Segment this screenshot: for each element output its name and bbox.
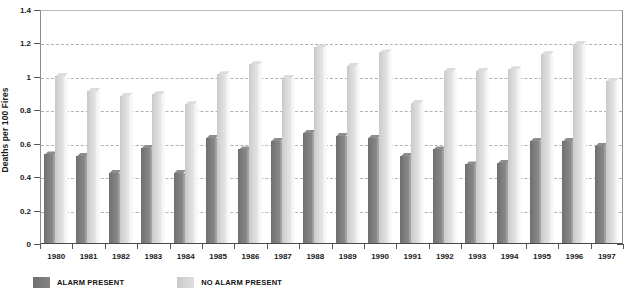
bar-side-face <box>485 71 489 243</box>
x-axis-tick <box>364 244 365 249</box>
bar-side-face <box>64 76 68 243</box>
y-axis-tick-label: 0.6 <box>0 139 31 148</box>
x-axis-tick <box>396 244 397 249</box>
x-axis-tick <box>105 244 106 249</box>
bar-front-face <box>433 149 442 243</box>
bar-1989-no-alarm-present <box>347 66 356 243</box>
bar-side-face <box>194 104 198 243</box>
bar-1984-no-alarm-present <box>185 104 194 243</box>
bar-side-face <box>420 103 424 243</box>
bar-front-face <box>109 173 118 243</box>
bar-1988-alarm-present <box>303 133 312 243</box>
bar-1981-no-alarm-present <box>87 91 96 243</box>
x-axis-tick <box>526 244 527 249</box>
x-axis-tick <box>558 244 559 249</box>
x-axis-tick <box>234 244 235 249</box>
bar-front-face <box>141 148 150 243</box>
bar-side-face <box>453 71 457 243</box>
bar-front-face <box>606 81 615 243</box>
bar-front-face <box>508 69 517 243</box>
bar-side-face <box>323 47 327 243</box>
x-axis-tick <box>267 244 268 249</box>
bar-1993-alarm-present <box>465 164 474 243</box>
legend-label-alarm-present: ALARM PRESENT <box>57 278 124 287</box>
bar-1986-alarm-present <box>238 149 247 243</box>
bar-front-face <box>303 133 312 243</box>
bar-1988-no-alarm-present <box>314 47 323 243</box>
bar-front-face <box>379 52 388 243</box>
bar-1989-alarm-present <box>336 136 345 243</box>
plot-inner <box>41 11 622 243</box>
y-axis-tick-label: 0.4 <box>0 173 31 182</box>
bar-1980-alarm-present <box>44 154 53 243</box>
gridline <box>41 44 622 45</box>
bar-1997-no-alarm-present <box>606 81 615 243</box>
bar-1990-alarm-present <box>368 138 377 243</box>
y-axis-tick-label: 1.4 <box>0 6 31 15</box>
bar-1987-alarm-present <box>271 141 280 243</box>
bar-front-face <box>314 47 323 243</box>
bar-1995-no-alarm-present <box>541 54 550 243</box>
x-axis-tick <box>40 244 41 249</box>
bar-1992-no-alarm-present <box>444 71 453 243</box>
y-axis-tick-label: 1.2 <box>0 39 31 48</box>
x-axis-tick <box>137 244 138 249</box>
bar-front-face <box>368 138 377 243</box>
bar-front-face <box>185 104 194 243</box>
bar-1993-no-alarm-present <box>476 71 485 243</box>
bar-front-face <box>541 54 550 243</box>
bar-side-face <box>517 69 521 243</box>
y-axis-tick-label: 0.8 <box>0 106 31 115</box>
x-axis-tick <box>493 244 494 249</box>
bar-1983-alarm-present <box>141 148 150 243</box>
bar-side-face <box>96 91 100 243</box>
x-axis-tick <box>332 244 333 249</box>
bar-front-face <box>282 78 291 243</box>
bar-side-face <box>226 74 230 243</box>
bar-front-face <box>120 96 129 243</box>
bar-1995-alarm-present <box>530 141 539 243</box>
bar-1996-alarm-present <box>562 141 571 243</box>
gridline <box>41 78 622 79</box>
bar-side-face <box>582 44 586 243</box>
bar-1991-no-alarm-present <box>411 103 420 243</box>
x-axis-tick <box>623 244 624 249</box>
bar-side-face <box>129 96 133 243</box>
bar-front-face <box>249 64 258 243</box>
x-axis-tick <box>202 244 203 249</box>
bar-front-face <box>238 149 247 243</box>
bar-front-face <box>271 141 280 243</box>
bar-front-face <box>217 74 226 243</box>
bar-1985-no-alarm-present <box>217 74 226 243</box>
y-axis-tick-label: 0 <box>0 240 31 249</box>
legend-item-alarm-present: ALARM PRESENT <box>33 277 124 288</box>
bar-side-face <box>356 66 360 243</box>
legend-swatch-alarm-present <box>33 277 50 288</box>
bar-side-face <box>550 54 554 243</box>
legend-label-no-alarm-present: NO ALARM PRESENT <box>201 278 282 287</box>
chart-legend: ALARM PRESENT NO ALARM PRESENT <box>33 277 282 288</box>
x-axis-tick <box>461 244 462 249</box>
bar-front-face <box>497 163 506 243</box>
bar-1982-no-alarm-present <box>120 96 129 243</box>
bar-front-face <box>444 71 453 243</box>
bar-front-face <box>573 44 582 243</box>
bar-front-face <box>595 146 604 243</box>
bar-1980-no-alarm-present <box>55 76 64 243</box>
bar-front-face <box>336 136 345 243</box>
bar-front-face <box>206 138 215 243</box>
bar-front-face <box>347 66 356 243</box>
bar-front-face <box>476 71 485 243</box>
bar-1985-alarm-present <box>206 138 215 243</box>
bar-front-face <box>152 94 161 243</box>
bar-1994-alarm-present <box>497 163 506 243</box>
bar-side-face <box>615 81 619 243</box>
bar-side-face <box>388 52 392 243</box>
x-axis-tick <box>591 244 592 249</box>
x-axis-tick <box>429 244 430 249</box>
bar-front-face <box>76 156 85 243</box>
bar-front-face <box>411 103 420 243</box>
bar-front-face <box>44 154 53 243</box>
bar-1982-alarm-present <box>109 173 118 243</box>
bar-front-face <box>174 173 183 243</box>
